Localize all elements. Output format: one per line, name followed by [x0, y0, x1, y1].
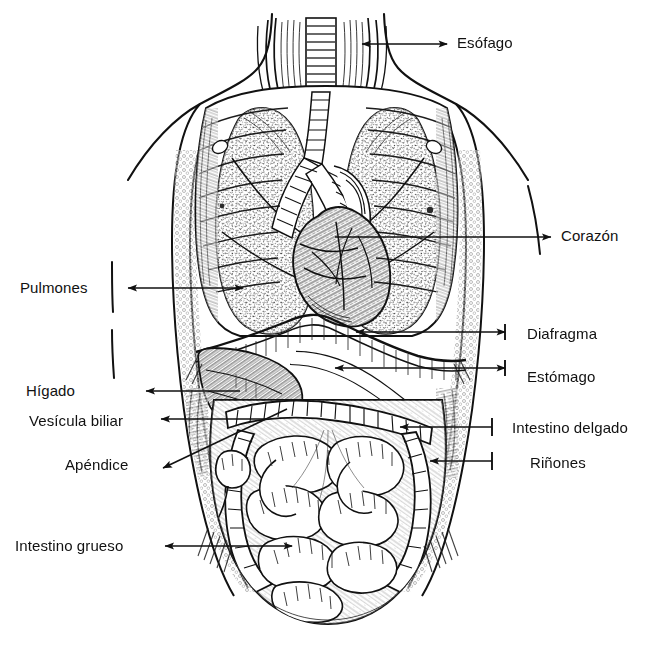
label-estomago: Estómago [527, 369, 595, 384]
label-intestino-grueso: Intestino grueso [15, 538, 123, 553]
label-apendice: Apéndice [65, 457, 128, 472]
label-pulmones: Pulmones [20, 280, 88, 295]
label-diafragma: Diafragma [527, 326, 597, 341]
label-higado: Hígado [26, 383, 75, 398]
label-vesicula-biliar: Vesícula biliar [29, 413, 123, 428]
label-corazon: Corazón [561, 228, 618, 243]
label-esofago: Esófago [457, 35, 513, 50]
label-intestino-delgado: Intestino delgado [512, 420, 628, 435]
label-rinones: Riñones [530, 455, 586, 470]
anatomy-figure-page: Esófago Corazón Pulmones Diafragma Estóm… [0, 0, 645, 656]
